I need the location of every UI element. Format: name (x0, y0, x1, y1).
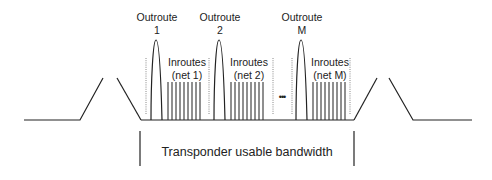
inroutes-title: Inroutes (168, 56, 206, 69)
outroute-2-carrier (214, 40, 225, 120)
inroutes-net-2-label: Inroutes (net 2) (230, 56, 268, 82)
outroute-title: Outroute (137, 11, 178, 24)
outroute-index: 2 (200, 24, 241, 37)
outroute-M-carrier (296, 40, 307, 120)
inroutes-net-M-spikes (313, 82, 345, 120)
inroutes-net-1-label: Inroutes (net 1) (168, 56, 206, 82)
outroute-1-label: Outroute 1 (137, 11, 178, 37)
ellipsis: ••• (279, 91, 285, 104)
outroute-1-carrier (151, 40, 162, 120)
inroutes-title: Inroutes (230, 56, 268, 69)
inroutes-net: (net M) (311, 69, 349, 82)
left-band-edge (117, 78, 141, 120)
outroute-title: Outroute (200, 11, 241, 24)
inroutes-title: Inroutes (311, 56, 349, 69)
inroutes-net-M-label: Inroutes (net M) (311, 56, 349, 82)
bandwidth-label: Transponder usable bandwidth (161, 145, 332, 159)
outroute-index: 1 (137, 24, 178, 37)
inroutes-net-1-spikes (168, 82, 200, 120)
right-adjacent-transponder (389, 78, 472, 120)
outroute-2-label: Outroute 2 (200, 11, 241, 37)
right-band-edge (354, 78, 377, 120)
inroutes-net-2-spikes (231, 82, 263, 120)
left-adjacent-transponder-rise (24, 78, 103, 120)
outroute-M-label: Outroute M (282, 11, 323, 37)
inroutes-net: (net 2) (230, 69, 268, 82)
inroutes-net: (net 1) (168, 69, 206, 82)
outroute-title: Outroute (282, 11, 323, 24)
outroute-index: M (282, 24, 323, 37)
